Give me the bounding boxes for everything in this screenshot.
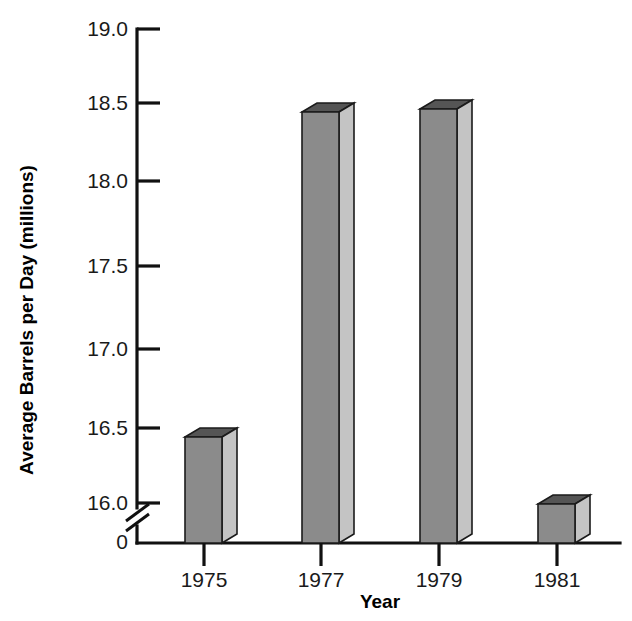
bar-1975-side-face (222, 428, 237, 543)
bar-1975[interactable] (185, 428, 237, 543)
bar-1979-side-face (457, 100, 472, 543)
y-tick-labels: 19.0 18.5 18.0 17.5 17.0 16.5 16.0 0 (87, 17, 128, 553)
bar-1981-front-face (538, 504, 575, 543)
y-tick-label-0: 19.0 (87, 17, 128, 40)
y-tick-label-2: 18.0 (87, 169, 128, 192)
y-tick-label-1: 18.5 (87, 91, 128, 114)
bar-chart: Average Barrels per Day (millions) 19.0 … (0, 0, 632, 621)
y-tick-label-6: 16.0 (87, 491, 128, 514)
y-axis-title-group: Average Barrels per Day (millions) (16, 165, 37, 475)
y-axis-title: Average Barrels per Day (millions) (16, 165, 37, 475)
bar-1977[interactable] (302, 103, 354, 543)
bar-1981-side-face (575, 495, 590, 543)
x-tick-marks (204, 543, 557, 566)
y-tick-label-zero: 0 (116, 530, 128, 553)
bar-1975-front-face (185, 437, 222, 543)
x-tick-labels: 1975 1977 1979 1981 (181, 568, 581, 591)
y-tick-label-5: 16.5 (87, 416, 128, 439)
x-tick-label-1: 1977 (298, 568, 345, 591)
bar-1981[interactable] (538, 495, 590, 543)
y-tick-label-3: 17.5 (87, 254, 128, 277)
y-tick-label-4: 17.0 (87, 337, 128, 360)
x-axis-title: Year (360, 591, 401, 612)
x-tick-label-3: 1981 (534, 568, 581, 591)
x-tick-label-2: 1979 (416, 568, 463, 591)
bar-1979[interactable] (420, 100, 472, 543)
bar-1977-front-face (302, 112, 339, 543)
y-tick-marks (137, 29, 160, 503)
bar-1979-front-face (420, 109, 457, 543)
bar-1977-side-face (339, 103, 354, 543)
chart-container: Average Barrels per Day (millions) 19.0 … (0, 0, 632, 621)
x-tick-label-0: 1975 (181, 568, 228, 591)
